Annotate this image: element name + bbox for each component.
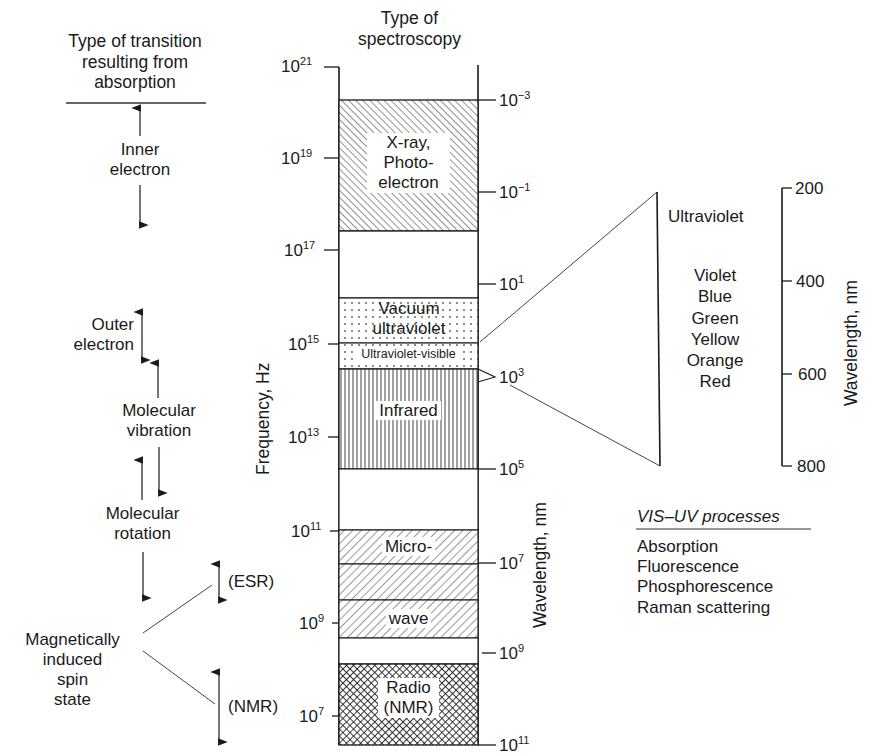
wl-tick-1: 101 (499, 275, 524, 295)
freq-tick-9: 109 (299, 614, 324, 634)
wl-tick-neg3: 10−3 (499, 91, 530, 111)
wl-tick-neg1: 10−1 (499, 183, 530, 203)
region-microwave-top: Micro- (367, 537, 450, 557)
wl-tick-3: 103 (499, 368, 524, 388)
processes-list: Absorption Fluorescence Phosphorescence … (637, 537, 773, 618)
freq-tick-13: 1013 (288, 428, 319, 448)
nm-tick-600: 600 (798, 365, 826, 385)
wl-tick-9: 109 (499, 644, 524, 664)
freq-tick-17: 1017 (284, 241, 315, 261)
spectroscopy-column-title: Type of spectroscopy (322, 8, 497, 49)
wl-tick-5: 105 (499, 460, 524, 480)
freq-tick-7: 107 (299, 707, 324, 727)
wl-tick-7: 107 (499, 554, 524, 574)
region-xray: X-ray, Photo- electron (367, 133, 450, 193)
transition-magnetic-spin: Magnetically induced spin state (0, 630, 145, 710)
nm-tick-400: 400 (796, 272, 824, 292)
region-uv-visible: Ultraviolet-visible (343, 347, 474, 362)
region-infrared: Infrared (367, 401, 450, 421)
freq-tick-21: 1021 (281, 57, 312, 77)
nm-tick-800: 800 (797, 457, 825, 477)
transition-column-title: Type of transition resulting from absorp… (40, 31, 230, 93)
region-vacuum-uv: Vacuum ultraviolet (350, 299, 468, 339)
transition-outer-electron: Outer electron (52, 315, 134, 355)
wavelength-axis-label: Wavelength, nm (530, 502, 551, 628)
region-microwave-bottom: wave (367, 609, 450, 629)
wl-tick-11: 1011 (499, 736, 529, 756)
expanded-ultraviolet: Ultraviolet (668, 207, 744, 227)
freq-tick-19: 1019 (281, 149, 312, 169)
esr-label: (ESR) (228, 572, 274, 592)
nmr-label: (NMR) (228, 697, 278, 717)
frequency-axis-label: Frequency, Hz (253, 363, 274, 476)
nm-tick-200: 200 (795, 179, 823, 199)
region-radio: Radio (NMR) (378, 678, 439, 718)
transition-molecular-vibration: Molecular vibration (100, 401, 218, 441)
transition-molecular-rotation: Molecular rotation (80, 504, 205, 544)
freq-tick-11: 1011 (291, 522, 321, 542)
visible-color-list: Violet Blue Green Yellow Orange Red (670, 265, 760, 393)
transition-inner-electron: Inner electron (90, 140, 190, 180)
processes-title: VIS–UV processes (637, 507, 780, 527)
nm-scale-axis-label: Wavelength, nm (841, 280, 862, 406)
freq-tick-15: 1015 (288, 335, 319, 355)
